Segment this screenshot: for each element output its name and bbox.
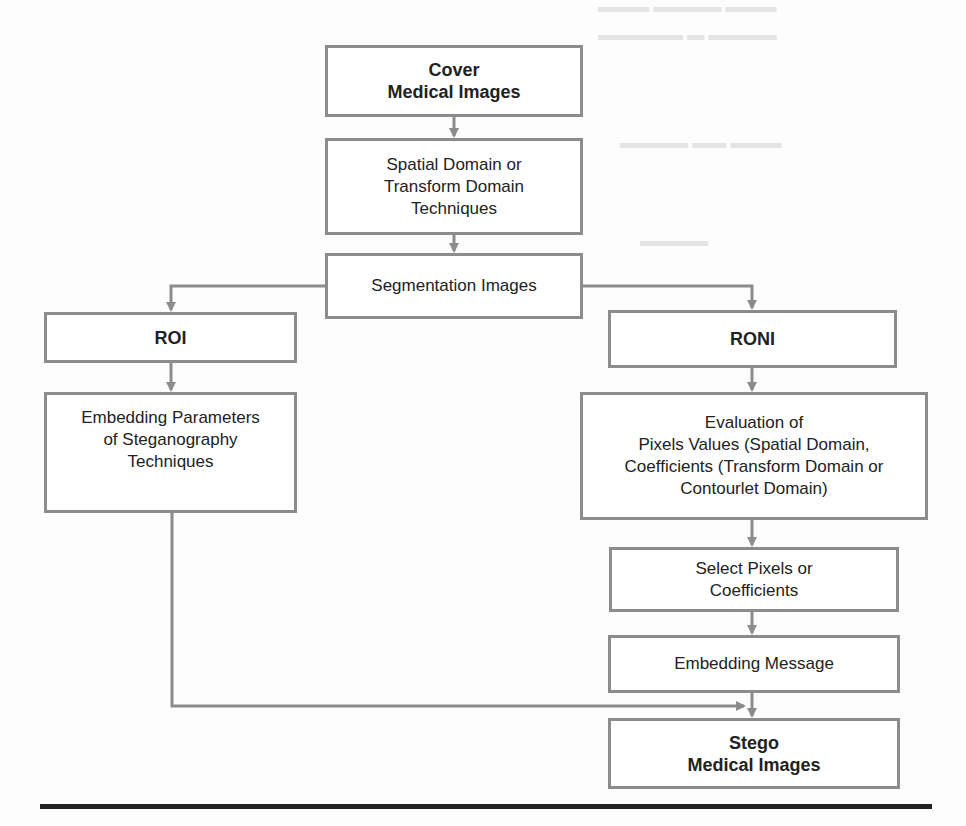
node-embedding-parameters: Embedding Parameters of Steganography Te… [44,392,297,513]
bottom-rule [40,804,932,809]
node-embedding-message: Embedding Message [608,635,900,693]
node-roni: RONI [608,310,897,368]
node-segmentation-images: Segmentation Images [325,253,583,319]
node-spatial-transform-techniques: Spatial Domain or Transform Domain Techn… [325,138,583,235]
node-roi: ROI [44,312,297,363]
arrow-segmentation-to-roni [583,286,752,308]
arrow-segmentation-to-roi [171,286,325,310]
node-evaluation-of-pixels: Evaluation of Pixels Values (Spatial Dom… [580,392,928,520]
node-cover-medical-images: Cover Medical Images [325,45,583,117]
node-stego-medical-images: Stego Medical Images [608,718,900,789]
node-select-pixels: Select Pixels or Coefficients [609,547,899,612]
